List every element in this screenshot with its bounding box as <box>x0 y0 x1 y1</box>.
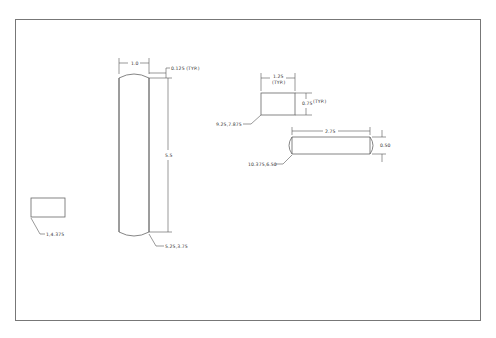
small-block-position-label: 9.25,7.875 <box>216 122 242 127</box>
left-block-position-label: 1,4.375 <box>46 232 64 237</box>
small-block-height-note: (TYP.) <box>313 99 326 104</box>
left-block: 1,4.375 <box>31 198 65 237</box>
tall-bar: 1.0 0.125 (TYP.) 5.5 5.25,3.75 <box>119 58 200 249</box>
small-block-width-label: 1.25 <box>273 74 284 79</box>
technical-drawing: 1.0 0.125 (TYP.) 5.5 5.25,3.75 1.25 (TYP… <box>0 0 496 338</box>
horizontal-bar-height-label: 0.50 <box>380 143 391 148</box>
drawing-frame <box>16 20 481 321</box>
horizontal-bar-width-label: 2.75 <box>325 129 336 134</box>
small-block-height-label: 0.75 <box>302 101 313 106</box>
tall-bar-position-label: 5.25,3.75 <box>165 244 188 249</box>
small-block-outline <box>261 93 295 115</box>
small-block-width-note: (TYP.) <box>272 80 285 85</box>
horizontal-bar-outline <box>289 137 373 154</box>
horizontal-bar-position-label: 10.375,6.50 <box>248 162 277 167</box>
horizontal-bar: 2.75 0.50 10.375,6.50 <box>248 127 391 167</box>
tall-bar-height-label: 5.5 <box>165 153 173 158</box>
tall-bar-corner-label: 0.125 (TYP.) <box>171 66 200 71</box>
tall-bar-width-label: 1.0 <box>131 61 139 66</box>
left-block-outline <box>31 198 65 217</box>
tall-bar-outline <box>119 74 149 236</box>
small-block: 1.25 (TYP.) 0.75 (TYP.) 9.25,7.875 <box>216 73 326 127</box>
